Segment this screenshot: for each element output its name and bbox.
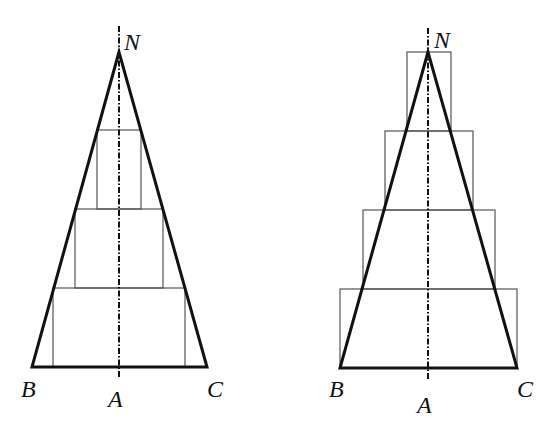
label-C: C <box>517 376 534 402</box>
label-N: N <box>123 29 142 55</box>
label-B: B <box>329 376 344 402</box>
label-N: N <box>433 27 452 53</box>
right-figure: N B A C <box>329 27 534 418</box>
label-C: C <box>207 376 224 402</box>
label-B: B <box>21 376 36 402</box>
diagram-canvas: N B A C N B A C <box>0 0 560 438</box>
label-A: A <box>106 386 123 412</box>
left-figure: N B A C <box>21 26 224 412</box>
label-A: A <box>415 392 432 418</box>
